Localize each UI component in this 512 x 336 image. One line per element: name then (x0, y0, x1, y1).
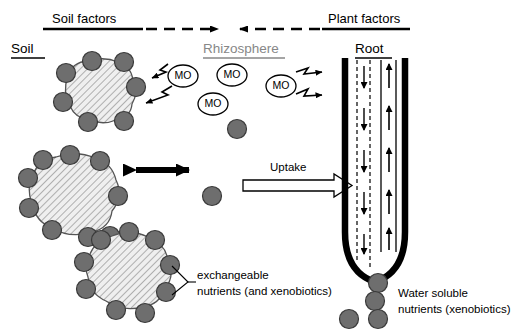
root-structure (345, 58, 405, 282)
free-particle (228, 120, 247, 139)
soil-aggregate-top (54, 52, 146, 132)
uptake-arrow (243, 174, 352, 197)
soil-zone-label: Soil (11, 41, 34, 57)
soil-aggregate-middle (19, 146, 128, 247)
mo-label: MO (198, 97, 228, 109)
mo-label: MO (168, 69, 198, 81)
water-soluble-annotation-line1: Water soluble (398, 287, 468, 301)
plant-factors-label: Plant factors (328, 11, 400, 26)
uptake-label: Uptake (270, 161, 306, 175)
legend-particle-cluster (340, 274, 388, 329)
exchangeable-annotation-line1: exchangeable (197, 269, 269, 283)
exchangeable-annotation-line2: nutrients (and xenobiotics) (197, 285, 332, 299)
water-soluble-annotation-line2: nutrients (xenobiotics) (398, 303, 511, 317)
mo-label: MO (217, 68, 247, 80)
rhizosphere-diagram: Soil factors Plant factors Soil Rhizosph… (0, 0, 512, 336)
rhizosphere-zone-label: Rhizosphere (203, 41, 279, 57)
root-zone-label: Root (355, 41, 384, 57)
soil-factors-label: Soil factors (52, 11, 116, 26)
mo-label: MO (266, 79, 296, 91)
free-particle (203, 187, 222, 206)
zigzag-arrow-to-root (296, 68, 322, 96)
